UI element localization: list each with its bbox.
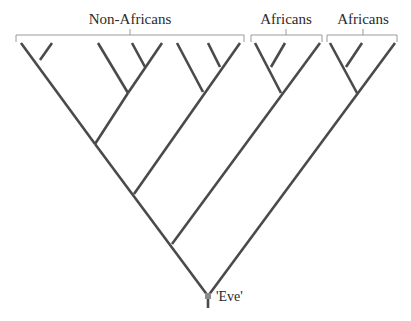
- tree-branch: [255, 43, 281, 93]
- tree-branch: [271, 43, 285, 67]
- tree-branches: [21, 43, 395, 308]
- tree-branch: [128, 43, 162, 93]
- group-label-africans-2: Africans: [337, 12, 389, 27]
- tree-branch: [40, 43, 52, 60]
- group-label-africans-1: Africans: [260, 12, 312, 27]
- tree-branch: [21, 43, 95, 144]
- group-bracket: [251, 29, 322, 42]
- tree-graphic: [0, 0, 411, 321]
- group-bracket: [327, 29, 397, 42]
- tree-branch: [346, 43, 362, 67]
- root-label-eve: 'Eve': [216, 290, 243, 304]
- phylogenetic-tree-diagram: Non-Africans Africans Africans 'Eve': [0, 0, 411, 321]
- tree-branch: [208, 43, 395, 296]
- tree-branch: [177, 43, 203, 92]
- tree-branch: [330, 43, 357, 93]
- root-node-marker: [205, 293, 211, 299]
- tree-branch: [95, 93, 128, 144]
- tree-branch: [132, 43, 145, 67]
- tree-branch: [208, 43, 220, 67]
- group-label-non-africans: Non-Africans: [89, 12, 171, 27]
- tree-branch: [98, 43, 128, 93]
- group-brackets: [16, 29, 397, 42]
- group-bracket: [16, 29, 244, 42]
